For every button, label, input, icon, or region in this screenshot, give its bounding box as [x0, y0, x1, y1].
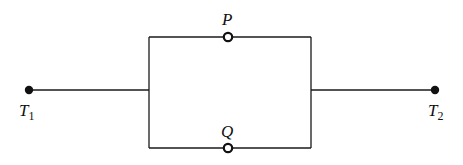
switch-p-contact-icon — [224, 33, 232, 41]
terminal-t1-dot — [25, 86, 33, 94]
switch-p-label: P — [221, 10, 232, 29]
terminal-t1-label: T1 — [19, 101, 34, 123]
terminal-t1-subscript: 1 — [28, 109, 34, 123]
parallel-circuit-diagram: P Q T1 T2 — [0, 0, 463, 165]
terminal-t2-label: T2 — [428, 101, 443, 123]
switch-q-contact-icon — [224, 144, 232, 152]
switch-q-label: Q — [221, 122, 233, 141]
terminal-t2-subscript: 2 — [437, 109, 443, 123]
terminal-t2-dot — [431, 86, 439, 94]
